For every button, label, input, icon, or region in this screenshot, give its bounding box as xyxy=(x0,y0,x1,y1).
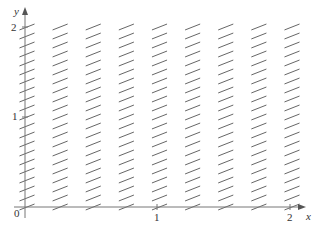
slope-segment xyxy=(284,150,299,156)
slope-segment xyxy=(119,159,134,165)
slope-segment xyxy=(119,51,134,57)
slope-segment xyxy=(119,78,134,84)
slope-segment xyxy=(19,87,34,93)
slope-segment xyxy=(53,105,68,111)
slope-segment xyxy=(86,186,101,192)
slope-segment xyxy=(251,105,266,111)
slope-segment xyxy=(152,33,167,39)
slope-segment xyxy=(86,24,101,30)
slope-segment xyxy=(185,42,200,48)
slope-segment xyxy=(152,96,167,102)
y-axis-arrow-icon xyxy=(22,7,28,15)
slope-segment xyxy=(119,177,134,183)
slope-segment xyxy=(86,159,101,165)
slope-segment xyxy=(185,123,200,129)
slope-segment xyxy=(19,168,34,174)
slope-segment xyxy=(152,150,167,156)
slope-segment xyxy=(218,186,233,192)
slope-segment xyxy=(284,69,299,75)
slope-segment xyxy=(185,33,200,39)
slope-segment xyxy=(86,33,101,39)
slope-segment xyxy=(86,51,101,57)
y-tick-label-1: 1 xyxy=(12,111,18,122)
slope-segment xyxy=(152,132,167,138)
slope-segment xyxy=(218,69,233,75)
slope-segment xyxy=(86,42,101,48)
slope-segment xyxy=(53,168,68,174)
slope-segment xyxy=(152,168,167,174)
slope-segment xyxy=(86,69,101,75)
slope-segment xyxy=(86,177,101,183)
slope-segment xyxy=(251,177,266,183)
slope-segment xyxy=(251,195,266,201)
slope-segment xyxy=(218,195,233,201)
slope-segment xyxy=(19,141,34,147)
y-axis-label: y xyxy=(14,6,19,17)
slope-segment xyxy=(53,123,68,129)
slope-segment xyxy=(218,78,233,84)
slope-segment xyxy=(185,87,200,93)
slope-segment xyxy=(53,132,68,138)
slope-segment xyxy=(284,186,299,192)
slope-segment xyxy=(185,60,200,66)
slope-segment xyxy=(152,24,167,30)
slope-segment xyxy=(284,168,299,174)
slope-segment xyxy=(19,42,34,48)
x-tick-label-2: 2 xyxy=(287,212,293,223)
slope-segment xyxy=(185,150,200,156)
x-tick-label-1: 1 xyxy=(154,212,160,223)
slope-segment xyxy=(53,24,68,30)
slope-segment xyxy=(152,60,167,66)
slope-segment xyxy=(19,186,34,192)
slope-segment xyxy=(251,159,266,165)
slope-segment xyxy=(218,24,233,30)
slope-segment xyxy=(86,168,101,174)
slope-segment xyxy=(19,195,34,201)
slope-segment xyxy=(19,177,34,183)
slope-segment xyxy=(53,96,68,102)
slope-segment xyxy=(119,141,134,147)
slope-segment xyxy=(284,177,299,183)
slope-segment xyxy=(251,150,266,156)
slope-segment xyxy=(284,123,299,129)
slope-segment xyxy=(218,42,233,48)
slope-segment xyxy=(152,78,167,84)
slope-segment xyxy=(119,168,134,174)
slope-segment xyxy=(284,78,299,84)
slope-segment xyxy=(218,96,233,102)
slope-segments xyxy=(19,24,299,210)
slope-segment xyxy=(86,141,101,147)
slope-segment xyxy=(218,132,233,138)
slope-segment xyxy=(251,24,266,30)
slope-segment xyxy=(284,105,299,111)
slope-segment xyxy=(53,177,68,183)
slope-segment xyxy=(218,114,233,120)
slope-segment xyxy=(19,78,34,84)
origin-label: 0 xyxy=(14,208,20,219)
slope-segment xyxy=(53,141,68,147)
slope-segment xyxy=(218,105,233,111)
slope-segment xyxy=(119,195,134,201)
slope-segment xyxy=(19,159,34,165)
slope-segment xyxy=(53,60,68,66)
slope-segment xyxy=(53,150,68,156)
slope-segment xyxy=(86,96,101,102)
slope-segment xyxy=(152,141,167,147)
slope-segment xyxy=(53,195,68,201)
slope-segment xyxy=(119,24,134,30)
slope-segment xyxy=(185,159,200,165)
slope-segment xyxy=(284,132,299,138)
slope-segment xyxy=(152,123,167,129)
slope-segment xyxy=(152,159,167,165)
slope-segment xyxy=(251,132,266,138)
slope-segment xyxy=(119,96,134,102)
slope-segment xyxy=(152,87,167,93)
slope-segment xyxy=(251,51,266,57)
slope-segment xyxy=(19,105,34,111)
slope-segment xyxy=(251,33,266,39)
slope-segment xyxy=(119,123,134,129)
slope-segment xyxy=(185,24,200,30)
slope-segment xyxy=(251,69,266,75)
slope-segment xyxy=(185,78,200,84)
slope-segment xyxy=(19,132,34,138)
